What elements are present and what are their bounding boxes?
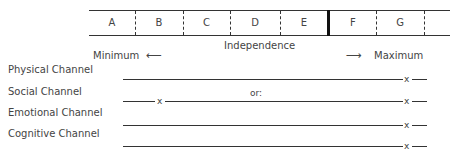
channel-line-cognitive xyxy=(123,146,403,147)
scale-cell-e: E xyxy=(280,11,328,35)
channel-label-physical: Physical Channel xyxy=(8,64,93,75)
channel-line-cognitive-end xyxy=(412,146,427,147)
channel-line-social-end xyxy=(412,101,427,102)
channel-line-social xyxy=(165,101,403,102)
channel-line-emotional-end xyxy=(412,125,427,126)
scale-divider xyxy=(424,11,425,35)
scale-cell-f: F xyxy=(330,11,376,35)
minimum-label: Minimum xyxy=(93,50,139,61)
scale-cell-a: A xyxy=(89,11,135,35)
channel-label-emotional: Emotional Channel xyxy=(8,107,102,118)
channel-line-physical xyxy=(123,79,403,80)
channel-label-social: Social Channel xyxy=(8,86,82,97)
channel-line-social-start xyxy=(123,101,155,102)
scale-cell-b: B xyxy=(135,11,183,35)
scale-title: Independence xyxy=(224,40,295,51)
marker-x: x xyxy=(157,96,162,106)
right-arrow-icon: ⟶ xyxy=(346,49,362,62)
marker-x: x xyxy=(404,141,409,151)
independence-scale: A B C D E F G xyxy=(89,10,450,36)
channel-line-physical-end xyxy=(412,79,427,80)
scale-cell-g: G xyxy=(376,11,424,35)
scale-cell-c: C xyxy=(183,11,230,35)
maximum-label: Maximum xyxy=(374,50,423,61)
or-note: or: xyxy=(250,88,262,98)
marker-x: x xyxy=(404,74,409,84)
marker-x: x xyxy=(404,96,409,106)
channel-line-emotional xyxy=(123,125,403,126)
channel-label-cognitive: Cognitive Channel xyxy=(8,128,100,139)
marker-x: x xyxy=(404,120,409,130)
left-arrow-icon: ⟵ xyxy=(146,49,162,62)
scale-cell-d: D xyxy=(230,11,280,35)
